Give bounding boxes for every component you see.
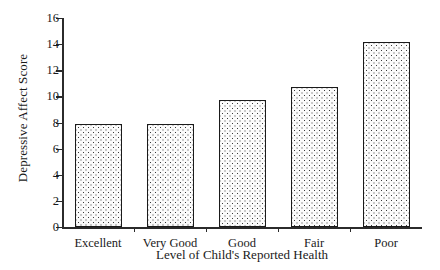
y-axis-title: Depressive Affect Score: [12, 3, 34, 233]
bar-chart-figure: Depressive Affect Score 0246810121416 Ex…: [0, 0, 440, 270]
y-axis-tick-label: 6: [53, 140, 59, 158]
bar: [75, 124, 122, 227]
y-axis-line: [62, 18, 64, 228]
x-axis-tick-mark: [278, 227, 279, 232]
bar: [219, 100, 266, 227]
x-axis-tick-mark: [350, 227, 351, 232]
y-axis-tick-label: 16: [47, 9, 60, 27]
y-axis-tick-label: 12: [47, 61, 60, 79]
y-axis-tick-label: 0: [53, 218, 59, 236]
y-axis-tick-label: 10: [47, 87, 60, 105]
y-axis-tick-label: 2: [53, 192, 59, 210]
x-axis-line: [62, 227, 422, 229]
y-axis-tick-label: 8: [53, 114, 59, 132]
bar: [147, 124, 194, 227]
y-axis-tick-label: 14: [47, 35, 60, 53]
x-axis-title: Level of Child's Reported Health: [62, 246, 422, 264]
bar: [291, 87, 338, 227]
x-axis-tick-mark: [134, 227, 135, 232]
plot-area: 0246810121416 ExcellentVery GoodGoodFair…: [62, 18, 422, 228]
y-axis-tick-label: 4: [53, 166, 59, 184]
x-axis-tick-mark: [206, 227, 207, 232]
bar: [363, 42, 410, 227]
